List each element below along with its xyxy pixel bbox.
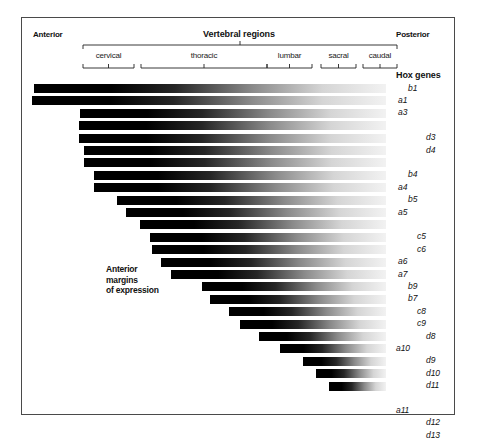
expression-gradient: [150, 233, 386, 242]
expression-gradient: [316, 369, 386, 378]
gene-label-d4: d4: [426, 145, 435, 155]
expression-gradient: [140, 220, 386, 229]
gene-label-b5: b5: [408, 194, 417, 204]
expression-bar-d4: [79, 134, 386, 143]
gene-label-b4: b4: [408, 169, 417, 179]
gene-label-b1: b1: [408, 83, 417, 93]
expression-bar-a1: [32, 96, 386, 105]
expression-gradient: [32, 96, 386, 105]
anterior-margins-line-2: of expression: [106, 285, 159, 296]
expression-gradient: [94, 183, 386, 192]
expression-bar-c5: [117, 196, 386, 205]
anterior-margins-line-1: margins: [106, 275, 159, 286]
expression-gradient: [80, 109, 386, 118]
expression-gradient: [84, 158, 386, 167]
gene-label-d9: d9: [426, 355, 435, 365]
hox-gene-expression-figure: Anterior Posterior Vertebral regions Hox…: [21, 17, 455, 415]
expression-gradient: [280, 344, 386, 353]
expression-gradient: [303, 357, 386, 366]
expression-gradient: [229, 307, 386, 316]
expression-bar-c6: [126, 208, 386, 217]
gene-label-b9: b9: [408, 281, 417, 291]
gene-label-c8: c8: [417, 306, 426, 316]
expression-bar-a10: [229, 307, 386, 316]
expression-bar-d13: [329, 382, 386, 391]
expression-gradient: [79, 134, 386, 143]
gene-label-a3: a3: [398, 107, 407, 117]
expression-gradient: [34, 84, 386, 93]
expression-gradient: [202, 282, 386, 291]
expression-bar-a7: [150, 233, 386, 242]
gene-label-d12: d12: [426, 417, 440, 427]
expression-gradient: [210, 295, 386, 304]
expression-gradient: [117, 196, 386, 205]
expression-bar-d12: [316, 369, 386, 378]
expression-gradient: [94, 171, 386, 180]
gene-label-d8: d8: [426, 331, 435, 341]
gene-label-d10: d10: [426, 368, 440, 378]
gene-label-a6: a6: [398, 256, 407, 266]
expression-gradient: [329, 382, 386, 391]
expression-bar-b1: [34, 84, 386, 93]
expression-bar-a4: [84, 158, 386, 167]
expression-gradient: [79, 121, 386, 130]
expression-bar-c9: [202, 282, 386, 291]
expression-bar-c8: [171, 270, 386, 279]
expression-bar-b7: [161, 258, 386, 267]
expression-gradient: [240, 320, 386, 329]
gene-label-a10: a10: [396, 343, 410, 353]
expression-bar-a3: [80, 109, 386, 118]
gene-label-a4: a4: [398, 182, 407, 192]
gene-label-a11: a11: [396, 405, 409, 415]
expression-bar-a11: [303, 357, 386, 366]
gene-label-c5: c5: [417, 231, 426, 241]
expression-bar-d3: [79, 121, 386, 130]
gene-label-b7: b7: [408, 293, 417, 303]
expression-bar-b5: [94, 171, 386, 180]
gene-label-c6: c6: [417, 244, 426, 254]
gene-label-a1: a1: [398, 95, 407, 105]
expression-gradient: [161, 258, 386, 267]
expression-bar-d9: [240, 320, 386, 329]
expression-bar-d8: [210, 295, 386, 304]
expression-gradient: [84, 146, 386, 155]
expression-bar-b9: [152, 245, 386, 254]
expression-gradient: [152, 245, 386, 254]
expression-bar-d11: [280, 344, 386, 353]
expression-gradient: [259, 332, 386, 341]
gene-label-d13: d13: [426, 430, 440, 440]
gene-label-c9: c9: [417, 318, 426, 328]
gene-label-d11: d11: [426, 380, 439, 390]
expression-bars-layer: b1a1a3d3d4b4a4b5a5c5c6a6a7b9b7c8c9d8a10d…: [22, 18, 456, 416]
gene-label-a5: a5: [398, 207, 407, 217]
anterior-margins-annotation: Anteriormarginsof expression: [106, 264, 159, 296]
expression-gradient: [171, 270, 386, 279]
expression-bar-d10: [259, 332, 386, 341]
expression-bar-a6: [140, 220, 386, 229]
anterior-margins-line-0: Anterior: [106, 264, 159, 275]
expression-gradient: [126, 208, 386, 217]
expression-bar-a5: [94, 183, 386, 192]
gene-label-d3: d3: [426, 132, 435, 142]
expression-bar-b4: [84, 146, 386, 155]
gene-label-a7: a7: [398, 269, 407, 279]
